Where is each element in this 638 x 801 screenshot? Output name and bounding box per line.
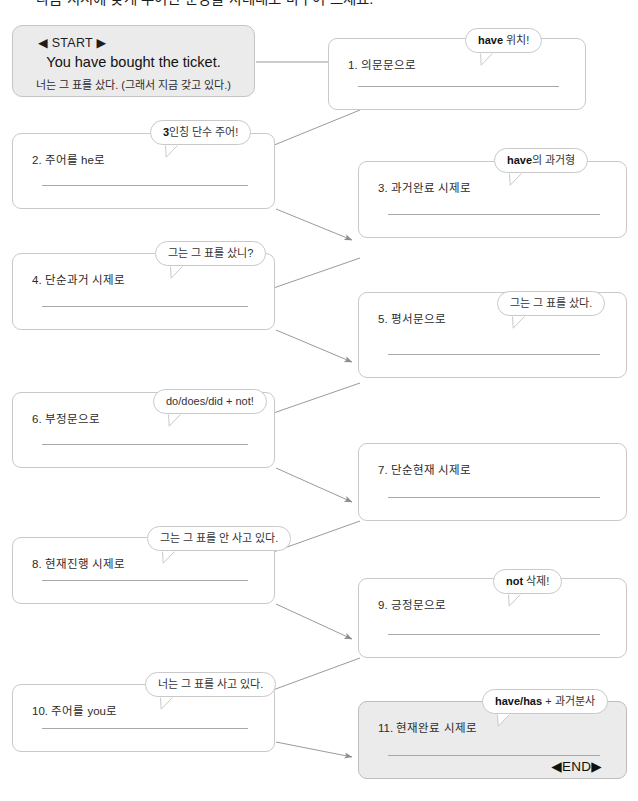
bubble-tail-icon [497, 713, 510, 726]
step-label: 5. 평서문으로 [378, 310, 446, 326]
worksheet-page: 다음 지시에 맞게 주어진 문장을 차례대로 바꾸어 쓰세요. [0, 0, 638, 801]
hint-text: + 과거분사 [542, 695, 595, 707]
hint-text: 너는 그 표를 사고 있다. [158, 678, 263, 690]
answer-line[interactable] [388, 634, 600, 635]
hint-keyword: have [478, 34, 503, 46]
hint-keyword: have/has [495, 695, 542, 707]
answer-line[interactable] [42, 580, 248, 581]
hint-keyword: not [506, 575, 523, 587]
hint-bubble-10: 너는 그 표를 사고 있다. [145, 672, 276, 697]
step-label: 7. 단순현재 시제로 [378, 461, 471, 477]
hint-text: 그는 그 표를 안 사고 있다. [160, 532, 278, 544]
step-box-3: 3. 과거완료 시제로 [358, 161, 627, 238]
step-label: 1. 의문문으로 [348, 56, 416, 72]
hint-bubble-3: have의 과거형 [494, 148, 588, 173]
hint-bubble-8: 그는 그 표를 안 사고 있다. [147, 526, 291, 551]
hint-text: 인칭 단수 주어! [169, 126, 238, 138]
start-sentence-ko: 너는 그 표를 샀다. (그래서 지금 갖고 있다.) [13, 76, 254, 92]
bubble-tail-icon [480, 52, 493, 65]
hint-text: 위치! [503, 34, 529, 46]
hint-text: 그는 그 표를 샀다. [510, 297, 592, 309]
bubble-tail-icon [168, 413, 181, 426]
step-label: 10. 주어를 you로 [32, 702, 117, 718]
bubble-tail-icon [509, 172, 522, 185]
start-box: ◀ START ▶ You have bought the ticket. 너는… [12, 25, 255, 97]
bubble-tail-icon [162, 550, 175, 563]
answer-line[interactable] [388, 497, 600, 498]
step-box-7: 7. 단순현재 시제로 [358, 443, 627, 521]
hint-text: 의 과거형 [532, 154, 575, 166]
bubble-tail-icon [508, 593, 521, 606]
bubble-tail-icon [160, 696, 173, 709]
hint-bubble-1: have 위치! [465, 28, 542, 53]
bubble-tail-icon [512, 315, 525, 328]
step-box-9: 9. 긍정문으로 [358, 578, 627, 658]
hint-bubble-5: 그는 그 표를 샀다. [497, 291, 605, 316]
hint-keyword: have [507, 154, 532, 166]
step-label: 9. 긍정문으로 [378, 596, 446, 612]
step-label: 6. 부정문으로 [32, 410, 100, 426]
answer-line[interactable] [42, 185, 248, 186]
start-tag: ◀ START ▶ [38, 35, 106, 50]
hint-bubble-11: have/has + 과거분사 [482, 689, 608, 714]
hint-bubble-6: do/does/did + not! [153, 389, 267, 414]
answer-line[interactable] [358, 86, 559, 87]
answer-line[interactable] [388, 354, 600, 355]
hint-bubble-9: not 삭제! [493, 569, 562, 594]
step-label: 11. 현재완료 시제로 [378, 719, 477, 735]
step-label: 8. 현재진행 시제로 [32, 555, 125, 571]
hint-text: do/does/did + not! [166, 395, 254, 407]
step-label: 4. 단순과거 시제로 [32, 271, 125, 287]
answer-line[interactable] [42, 728, 248, 729]
step-box-1: 1. 의문문으로 [328, 38, 586, 110]
bubble-tail-icon [170, 265, 183, 278]
end-tag: ◀END▶ [551, 758, 602, 774]
hint-text: 삭제! [523, 575, 549, 587]
start-sentence-en: You have bought the ticket. [13, 54, 254, 70]
step-label: 2. 주어를 he로 [32, 151, 105, 167]
bubble-tail-icon [165, 144, 178, 157]
answer-line[interactable] [388, 214, 600, 215]
answer-line[interactable] [42, 444, 248, 445]
page-title: 다음 지시에 맞게 주어진 문장을 차례대로 바꾸어 쓰세요. [36, 0, 373, 8]
hint-text: 그는 그 표를 샀니? [168, 247, 253, 259]
hint-bubble-2: 3인칭 단수 주어! [150, 120, 251, 145]
answer-line[interactable] [388, 755, 600, 756]
answer-line[interactable] [42, 306, 248, 307]
hint-bubble-4: 그는 그 표를 샀니? [155, 241, 266, 266]
step-label: 3. 과거완료 시제로 [378, 179, 471, 195]
